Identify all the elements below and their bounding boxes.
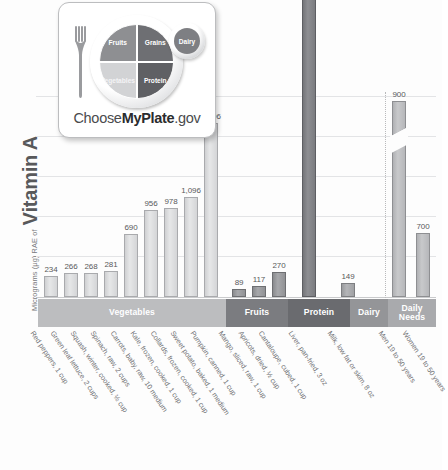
bar-rect xyxy=(144,210,158,297)
x-tick-label: Women 19 to 50 years xyxy=(401,329,448,393)
bar: 281 xyxy=(104,271,118,297)
bar-value-label: 234 xyxy=(44,265,57,274)
bar: 978 xyxy=(164,208,178,297)
bar: 956 xyxy=(144,210,158,297)
myplate-wordmark: ChooseMyPlate.gov xyxy=(59,110,215,126)
plate-segment-fruits: Fruits xyxy=(99,24,137,62)
bar: 266 xyxy=(64,273,78,297)
bar: 900 xyxy=(392,101,406,297)
bar-rect xyxy=(232,289,246,297)
bar-rect xyxy=(184,197,198,297)
bar: 1,096 xyxy=(184,197,198,297)
bar-rect xyxy=(64,273,78,297)
plate-segments: Fruits Grains Vegetables Protein xyxy=(99,24,174,99)
bar-rect xyxy=(252,286,266,297)
bar: 149 xyxy=(341,283,355,297)
bar-rect xyxy=(44,276,58,297)
bar-value-label: 270 xyxy=(272,261,285,270)
wordmark-myplate: MyPlate xyxy=(122,110,175,126)
bar: 234 xyxy=(44,276,58,297)
wordmark-choose: Choose xyxy=(73,110,121,126)
bar-value-label: 117 xyxy=(253,275,265,284)
bar-value-label: 89 xyxy=(235,278,244,287)
plate-segment-dairy: Dairy xyxy=(169,23,205,59)
bar: 117 xyxy=(252,286,266,297)
bar-value-label: 281 xyxy=(104,260,117,269)
bar-rect xyxy=(84,273,98,297)
bar-value-label: 149 xyxy=(341,272,354,281)
bar-value-label: 978 xyxy=(164,197,177,206)
plate-segment-vegetables-label: Vegetables xyxy=(101,77,135,84)
axis-baseline xyxy=(36,297,436,298)
bar: 268 xyxy=(84,273,98,297)
bar-value-label: 266 xyxy=(64,262,77,271)
x-axis-tick-labels: Red peppers, 1 cupGreen leaf lettuce, 2 … xyxy=(36,329,442,470)
plate-segment-vegetables: Vegetables xyxy=(99,62,137,100)
category-band: Dairy xyxy=(350,299,388,327)
bar-rect xyxy=(416,233,430,297)
plate-segment-protein: Protein xyxy=(137,62,175,100)
wordmark-gov: .gov xyxy=(174,110,200,126)
bar-rect xyxy=(341,283,355,297)
bar: 6,582 xyxy=(302,0,316,297)
category-band: Vegetables xyxy=(38,299,226,327)
plate-segment-grains-label: Grains xyxy=(145,39,166,46)
bar-value-label: 690 xyxy=(124,223,137,232)
bar-value-label: 700 xyxy=(416,222,429,231)
plate-graphic: Fruits Grains Vegetables Protein xyxy=(90,15,183,108)
fork-icon xyxy=(74,25,87,99)
bar: 690 xyxy=(124,234,138,297)
bar-rect xyxy=(124,234,138,297)
bar-rect xyxy=(104,271,118,297)
bar: 270 xyxy=(272,272,286,297)
bar-rect xyxy=(164,208,178,297)
bar: 700 xyxy=(416,233,430,297)
bar-value-label: 268 xyxy=(84,262,97,271)
bar-value-label: 900 xyxy=(392,90,405,99)
plate-segment-fruits-label: Fruits xyxy=(109,39,127,46)
bar-rect xyxy=(272,272,286,297)
plate-segment-dairy-label: Dairy xyxy=(179,38,196,45)
category-band-strip: VegetablesFruitsProteinDairyDaily Needs xyxy=(36,299,436,327)
x-tick-label: Milk, low fat or skim, 8 oz xyxy=(326,329,378,399)
bar: 89 xyxy=(232,289,246,297)
category-band: Protein xyxy=(288,299,350,327)
bar-rect xyxy=(302,0,316,297)
bar-rect xyxy=(204,123,218,297)
bar-value-label: 956 xyxy=(144,199,157,208)
myplate-logo: Fruits Grains Vegetables Protein Dairy C… xyxy=(58,2,216,138)
plate-segment-protein-label: Protein xyxy=(144,77,167,84)
category-band: Fruits xyxy=(226,299,288,327)
plate-segment-dairy-inner: Dairy xyxy=(174,28,200,54)
bar: 1,906 xyxy=(204,123,218,297)
category-band: Daily Needs xyxy=(388,299,436,327)
bar-value-label: 1,096 xyxy=(181,186,201,195)
